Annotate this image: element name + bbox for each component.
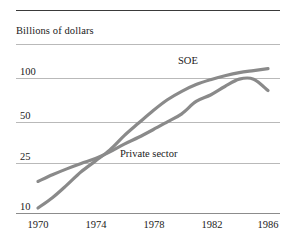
series-label-private-sector: Private sector	[120, 148, 177, 159]
line-private	[38, 78, 268, 182]
series-label-soe: SOE	[178, 55, 198, 66]
line-soe	[38, 69, 268, 208]
plot-area: 100 50 25 10 1970 1974 1978 1982 1986 SO…	[0, 0, 295, 248]
series-lines	[0, 0, 295, 248]
chart-figure: Billions of dollars 100 50 25 10 1970 19…	[0, 0, 295, 248]
